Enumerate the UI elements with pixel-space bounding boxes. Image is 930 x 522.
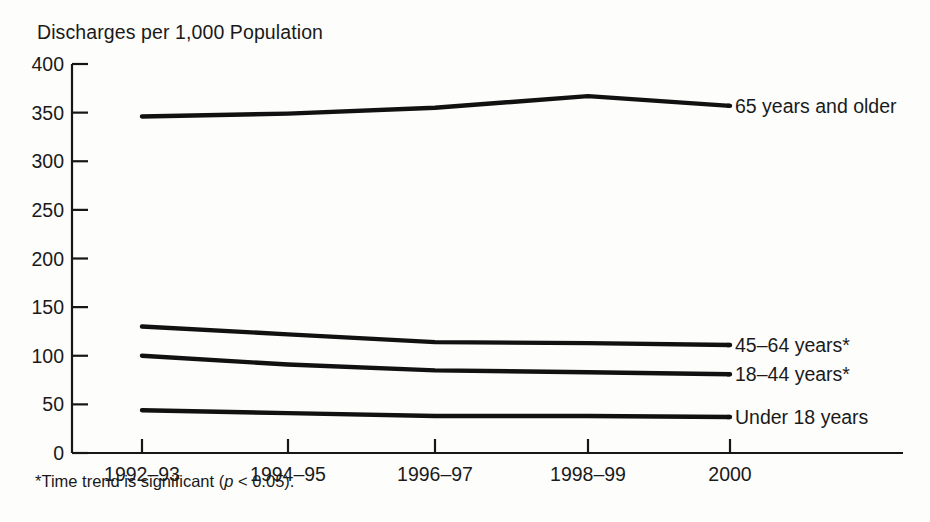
chart-label-leaders [727, 106, 730, 417]
figure-container: Discharges per 1,000 Population 05010015… [0, 0, 930, 522]
y-axis-tick-label: 350 [6, 101, 64, 124]
series-label: Under 18 years [735, 406, 868, 429]
series-line [142, 327, 730, 345]
chart-axes [72, 64, 903, 453]
x-axis-tick-label: 1996–97 [397, 463, 473, 486]
y-axis-tick-label: 250 [6, 198, 64, 221]
footnote-prefix: *Time trend is significant ( [35, 472, 224, 490]
x-axis-tick-label: 2000 [708, 463, 751, 486]
series-label: 65 years and older [735, 94, 897, 117]
y-axis-tick-label: 50 [6, 393, 64, 416]
y-axis-tick-label: 0 [6, 442, 64, 465]
chart-plot-area [0, 0, 930, 522]
series-label: 18–44 years* [735, 363, 850, 386]
y-axis-tick-label: 150 [6, 296, 64, 319]
y-axis-tick-label: 200 [6, 247, 64, 270]
y-axis-tick-label: 300 [6, 150, 64, 173]
y-axis-tick-label: 100 [6, 344, 64, 367]
chart-series-lines [142, 96, 730, 417]
footnote-italic-p: p [224, 472, 233, 490]
series-line [142, 356, 730, 374]
x-axis-tick-label: 1998–99 [550, 463, 626, 486]
footnote: *Time trend is significant (p < 0.05). [35, 472, 294, 491]
footnote-suffix: < 0.05). [233, 472, 294, 490]
series-line [142, 96, 730, 116]
series-label: 45–64 years* [735, 334, 850, 357]
series-line [142, 410, 730, 417]
y-axis-tick-label: 400 [6, 53, 64, 76]
